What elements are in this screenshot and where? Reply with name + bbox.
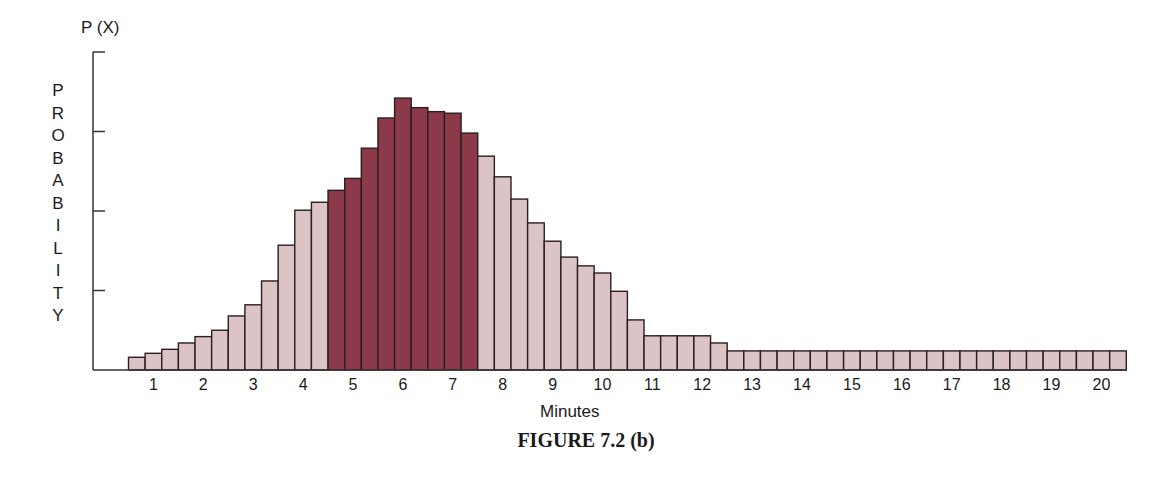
x-tick-label: 8	[488, 376, 518, 394]
x-tick-label: 1	[138, 376, 168, 394]
x-tick-label: 2	[188, 376, 218, 394]
bar	[943, 351, 960, 370]
y-axis-label-letter: A	[48, 170, 68, 193]
bar	[744, 351, 761, 370]
bar-series	[129, 98, 1127, 370]
bar	[977, 351, 994, 370]
y-axis-label-letter: L	[48, 238, 68, 261]
bar	[494, 177, 511, 370]
bar	[611, 291, 628, 370]
bar-highlighted	[361, 148, 378, 370]
x-tick-label: 3	[238, 376, 268, 394]
x-tick-label: 5	[338, 376, 368, 394]
bar-highlighted	[411, 108, 428, 370]
x-tick-label: 12	[687, 376, 717, 394]
x-tick-label: 6	[388, 376, 418, 394]
bar-highlighted	[345, 178, 362, 370]
bar	[893, 351, 910, 370]
x-tick-label: 11	[637, 376, 667, 394]
x-tick-label: 20	[1086, 376, 1116, 394]
bar	[212, 330, 229, 370]
bar	[578, 266, 595, 370]
bar	[644, 336, 661, 370]
bar	[1076, 351, 1093, 370]
bar	[777, 351, 794, 370]
bar	[511, 199, 528, 370]
bar-highlighted	[428, 112, 445, 370]
bar	[794, 351, 811, 370]
bar	[1060, 351, 1077, 370]
x-tick-label: 13	[737, 376, 767, 394]
bar-highlighted	[378, 118, 395, 370]
bar	[1110, 351, 1127, 370]
bar	[162, 349, 179, 370]
bar	[960, 351, 977, 370]
bar	[827, 351, 844, 370]
y-axis-label: PROBABILITY	[48, 80, 68, 328]
figure-caption: FIGURE 7.2 (b)	[0, 429, 1172, 452]
y-ticks	[93, 52, 105, 291]
bar	[129, 357, 146, 370]
x-tick-label: 19	[1037, 376, 1067, 394]
bar-highlighted	[461, 133, 478, 370]
x-tick-label: 15	[837, 376, 867, 394]
bar	[760, 351, 777, 370]
x-tick-label: 4	[288, 376, 318, 394]
bar-highlighted	[444, 113, 461, 370]
y-axis-label-letter: T	[48, 283, 68, 306]
bar	[627, 320, 644, 370]
bar	[677, 336, 694, 370]
x-tick-label: 14	[787, 376, 817, 394]
x-tick-label: 9	[538, 376, 568, 394]
bar	[295, 210, 312, 370]
bar	[993, 351, 1010, 370]
bar	[810, 351, 827, 370]
bar	[711, 343, 728, 370]
bar	[910, 351, 927, 370]
x-tick-label: 18	[987, 376, 1017, 394]
y-axis-label-letter: I	[48, 215, 68, 238]
y-axis-label-letter: O	[48, 125, 68, 148]
bar	[694, 336, 711, 370]
bar	[544, 241, 561, 370]
y-axis-label-letter: I	[48, 260, 68, 283]
bar	[311, 202, 328, 370]
bar	[727, 351, 744, 370]
y-axis-label-letter: P	[48, 80, 68, 103]
bar	[927, 351, 944, 370]
x-axis-label: Minutes	[540, 402, 600, 422]
y-axis-label-letter: Y	[48, 305, 68, 328]
bar	[262, 281, 279, 370]
bar	[195, 337, 212, 370]
y-axis-label-letter: R	[48, 103, 68, 126]
bar	[1010, 351, 1027, 370]
x-tick-label: 16	[887, 376, 917, 394]
bar	[145, 353, 162, 370]
bar	[877, 351, 894, 370]
bar	[228, 316, 245, 370]
bar	[1027, 351, 1044, 370]
y-axis-label-letter: B	[48, 148, 68, 171]
bar	[178, 343, 195, 370]
y-axis-label-letter: B	[48, 193, 68, 216]
bar	[661, 336, 678, 370]
y-axis-top-label: P (X)	[81, 18, 119, 38]
x-tick-label: 10	[588, 376, 618, 394]
bar	[844, 351, 861, 370]
bar-highlighted	[395, 98, 412, 370]
bar-highlighted	[328, 190, 345, 370]
bar	[1043, 351, 1060, 370]
bar	[245, 305, 262, 370]
bar	[1093, 351, 1110, 370]
x-tick-label: 7	[438, 376, 468, 394]
bar	[528, 223, 545, 370]
bar	[594, 273, 611, 370]
bar	[860, 351, 877, 370]
bar	[278, 245, 295, 370]
bar	[561, 257, 578, 370]
bar	[478, 156, 495, 370]
x-tick-label: 17	[937, 376, 967, 394]
